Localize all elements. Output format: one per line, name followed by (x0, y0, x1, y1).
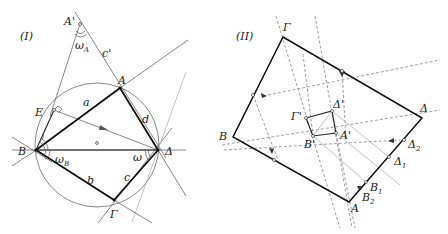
arrow-icon-1 (261, 93, 267, 98)
point-a (119, 87, 122, 90)
inner-diagonal (313, 111, 332, 136)
line-tangent-1 (132, 72, 186, 222)
label-a: A (350, 202, 359, 215)
point-a-prime (79, 23, 82, 26)
label-b: B (17, 145, 26, 158)
point-e (53, 109, 56, 112)
label-omega: ω (133, 151, 142, 164)
side-a (36, 88, 120, 150)
point-b-1 (365, 181, 368, 184)
label-b-prime: B' (303, 138, 315, 151)
label-side-a: a (83, 96, 90, 109)
label-gamma-prime: Γ' (290, 110, 302, 123)
label-omega-a-sub: A (83, 46, 89, 54)
figure-II-title: (II) (236, 30, 253, 43)
label-delta-2: Δ (407, 138, 416, 151)
label-side-b: b (87, 174, 94, 187)
arrow-head-icon (99, 125, 108, 130)
point-on-b-a (273, 159, 276, 162)
point-delta-1 (388, 156, 391, 159)
label-a-prime: A' (339, 129, 351, 142)
label-side-c-prime: c' (102, 47, 111, 60)
line-a-prime-e (50, 24, 80, 116)
label-b-2-sub: 2 (369, 198, 375, 206)
dashed-line-3 (268, 60, 440, 95)
label-a-prime: A' (63, 15, 75, 28)
point-delta-2 (403, 139, 406, 142)
figure-II: (II) (218, 16, 440, 228)
faint-line-b-prime-b1 (313, 136, 366, 182)
label-side-d: d (142, 113, 149, 126)
point-a-prime (335, 132, 338, 135)
label-omega-b: ω (55, 153, 64, 166)
label-omega-a: ω (75, 39, 84, 52)
label-delta-prime: Δ' (332, 98, 344, 111)
label-omega-b-sub: B (63, 160, 69, 168)
label-gamma: Γ (109, 208, 118, 221)
label-delta: Δ (419, 102, 428, 115)
label-b-1: B (369, 181, 378, 194)
point-center-o (96, 142, 99, 145)
point-gamma-prime (305, 117, 308, 120)
side-d (120, 88, 158, 150)
figure-I-title: (I) (20, 30, 33, 43)
label-e: E (34, 106, 43, 119)
quadrilateral-abgd (233, 37, 422, 202)
point-delta (156, 148, 159, 151)
point-b (34, 148, 37, 151)
label-delta-1: Δ (393, 155, 402, 168)
label-gamma: Γ (282, 21, 291, 34)
ray-from-a (120, 40, 188, 88)
label-b-2: B (361, 191, 370, 204)
label-b: B (218, 130, 227, 143)
diagram-canvas: (I) (0, 0, 448, 234)
label-delta-2-sub: 2 (415, 145, 421, 153)
arrow-icon-3 (269, 148, 274, 154)
point-gamma (113, 199, 116, 202)
label-delta-1-sub: 1 (402, 162, 406, 170)
label-b-1-sub: 1 (378, 188, 382, 196)
point-on-gamma-b (252, 94, 255, 97)
label-delta: Δ (164, 145, 173, 158)
label-a: A (117, 74, 126, 87)
figure-I: (I) (12, 12, 188, 223)
point-on-gamma-delta (341, 70, 344, 73)
label-side-c: c (124, 171, 130, 184)
